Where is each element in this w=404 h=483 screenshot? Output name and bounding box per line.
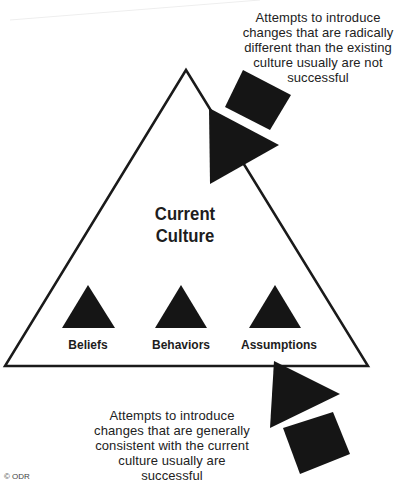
- caption-line: Attempts to introduce: [238, 10, 398, 25]
- caption-line: different than the existing: [238, 40, 398, 55]
- center-title: Current Culture: [137, 203, 234, 247]
- caption-line: Attempts to introduce: [85, 408, 259, 423]
- radical-change-caption: Attempts to introduce changes that are r…: [238, 10, 398, 85]
- consistent-change-caption: Attempts to introduce changes that are g…: [85, 408, 259, 483]
- behaviors-triangle-icon: [155, 285, 207, 328]
- behaviors-label: Behaviors: [145, 338, 217, 352]
- consistent-change-square-icon: [283, 412, 350, 474]
- caption-line: culture usually are not: [238, 55, 398, 70]
- caption-line: changes that are generally: [85, 423, 259, 438]
- assumptions-label: Assumptions: [234, 338, 324, 352]
- center-title-line-1: Current: [137, 203, 234, 225]
- center-title-line-2: Culture: [137, 225, 234, 247]
- caption-line: successful: [85, 468, 259, 483]
- caption-line: consistent with the current: [85, 438, 259, 453]
- beliefs-label: Beliefs: [62, 338, 114, 352]
- scan-artifact-line: [10, 0, 260, 20]
- caption-line: successful: [238, 70, 398, 85]
- assumptions-triangle-icon: [249, 285, 301, 328]
- caption-line: culture usually are: [85, 453, 259, 468]
- beliefs-triangle-icon: [62, 285, 115, 328]
- caption-line: changes that are radically: [238, 25, 398, 40]
- copyright-notice: © ODR: [4, 472, 30, 481]
